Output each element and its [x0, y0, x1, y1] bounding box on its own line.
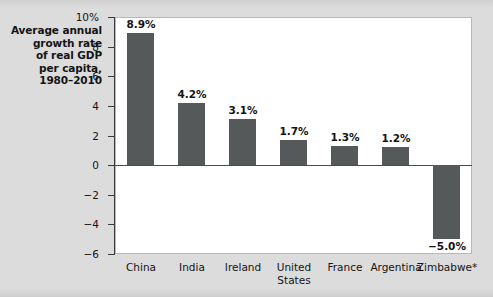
- y-axis-tick-mark: [108, 254, 115, 255]
- bar: [433, 165, 460, 239]
- y-axis-tick-mark: [108, 195, 115, 196]
- chart-title-line: Average annual: [4, 24, 102, 37]
- bar-value-label: 8.9%: [111, 19, 171, 30]
- y-axis-tick-mark: [108, 106, 115, 107]
- y-axis-tick-mark: [108, 47, 115, 48]
- y-axis-tick-label: 10%: [39, 12, 99, 22]
- y-axis-tick-label: 2: [39, 131, 99, 141]
- y-axis-tick-label: 4: [39, 101, 99, 111]
- y-axis-tick-mark: [108, 136, 115, 137]
- y-axis-tick-label: 0: [39, 160, 99, 170]
- bar-value-label: 1.2%: [366, 133, 426, 144]
- bar: [331, 146, 358, 165]
- bar-value-label: 3.1%: [213, 105, 273, 116]
- bar: [229, 119, 256, 165]
- y-axis-tick-mark: [108, 165, 115, 166]
- x-axis-category-label-line: States: [259, 274, 329, 287]
- y-axis-tick-mark: [108, 76, 115, 77]
- bar: [382, 147, 409, 165]
- y-axis-tick-mark: [108, 224, 115, 225]
- y-axis-tick-label: −2: [39, 190, 99, 200]
- y-axis-tick-label: −6: [39, 249, 99, 259]
- y-axis-tick-label: 8: [39, 42, 99, 52]
- bar: [280, 140, 307, 165]
- y-axis-tick-mark: [108, 17, 115, 18]
- y-axis-tick-label: −4: [39, 219, 99, 229]
- y-axis-tick-label: 6: [39, 71, 99, 81]
- chart-figure: Average annual growth rate of real GDP p…: [0, 0, 493, 297]
- x-axis-category-label: Zimbabwe*: [412, 261, 482, 274]
- x-axis-category-label-line: Zimbabwe*: [412, 261, 482, 274]
- zero-baseline: [115, 165, 472, 166]
- bar-value-label: 4.2%: [162, 89, 222, 100]
- bar-value-label: −5.0%: [417, 241, 477, 252]
- bar: [127, 33, 154, 165]
- bar: [178, 103, 205, 165]
